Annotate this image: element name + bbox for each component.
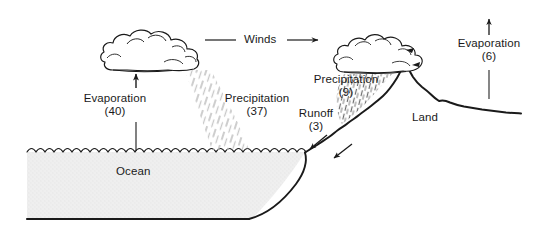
label-winds: Winds — [244, 33, 276, 46]
label-evaporation-land-name: Evaporation — [458, 37, 520, 49]
water-cycle-diagram: Evaporation (40) Precipitation (37) Wind… — [0, 0, 547, 234]
label-precipitation-land-value: (9) — [300, 86, 392, 99]
cloud-icon-land — [334, 35, 422, 74]
arrow-down-left-icon-1 — [310, 135, 327, 149]
label-ocean: Ocean — [116, 165, 150, 178]
label-ocean-name: Ocean — [116, 165, 150, 177]
label-runoff-value: (3) — [288, 120, 344, 133]
label-runoff-name: Runoff — [299, 107, 333, 119]
label-evaporation-ocean-name: Evaporation — [84, 92, 146, 104]
label-precipitation-land: Precipitation (9) — [300, 73, 392, 99]
label-winds-name: Winds — [244, 33, 276, 45]
label-evaporation-ocean-value: (40) — [65, 105, 165, 118]
arrow-down-left-icon-2 — [334, 144, 352, 158]
label-evaporation-ocean: Evaporation (40) — [65, 92, 165, 118]
label-runoff: Runoff (3) — [288, 107, 344, 133]
label-evaporation-land: Evaporation (6) — [443, 37, 535, 63]
cloud-icon-ocean — [101, 30, 199, 72]
label-land: Land — [412, 111, 438, 124]
ocean-body — [27, 152, 305, 219]
wave-line-icon — [27, 149, 306, 153]
label-precipitation-ocean-name: Precipitation — [225, 92, 290, 104]
label-land-name: Land — [412, 111, 438, 123]
label-precipitation-land-name: Precipitation — [314, 73, 379, 85]
label-evaporation-land-value: (6) — [443, 50, 535, 63]
